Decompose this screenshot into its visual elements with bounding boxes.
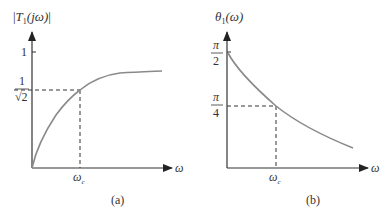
- magnitude-curve: [32, 71, 162, 168]
- ytick-label-1: 1: [21, 45, 27, 59]
- ytick-label-pi-4-den: 4: [213, 106, 219, 120]
- ytick-label-inv-sqrt2-den: √2: [15, 90, 28, 104]
- xtick-label-omega-c-b: ωc: [269, 170, 281, 186]
- panel-a: |T1(jω)| 1 1 √2 ωc ω (a): [13, 9, 183, 207]
- ytick-label-pi-2-den: 2: [213, 54, 219, 68]
- ylabel-b: θ1(ω): [215, 9, 243, 26]
- panel-b: θ1(ω) π 2 π 4 ωc ω (b): [211, 9, 379, 207]
- ytick-label-pi-2-num: π: [213, 38, 220, 52]
- xlabel-b: ω: [371, 161, 379, 175]
- xtick-label-omega-c-a: ωc: [73, 170, 85, 186]
- ylabel-a: |T1(jω)|: [13, 9, 51, 26]
- xlabel-a: ω: [175, 161, 183, 175]
- phase-curve: [228, 53, 353, 148]
- figure: |T1(jω)| 1 1 √2 ωc ω (a) θ1(ω) π: [0, 0, 382, 218]
- caption-b: (b): [306, 193, 320, 207]
- ytick-label-pi-4-num: π: [213, 90, 220, 104]
- ytick-label-inv-sqrt2-num: 1: [19, 74, 25, 88]
- caption-a: (a): [111, 193, 124, 207]
